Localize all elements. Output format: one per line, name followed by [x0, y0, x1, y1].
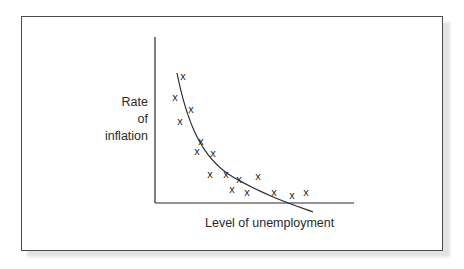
data-point-x-marker: x [177, 115, 183, 127]
data-point-x-marker: x [244, 186, 250, 198]
x-axis-label: Level of unemployment [205, 216, 334, 230]
data-points: xxxxxxxxxxxxxxxx [172, 70, 309, 201]
data-point-x-marker: x [210, 147, 216, 159]
data-point-x-marker: x [229, 183, 235, 195]
data-point-x-marker: x [289, 189, 295, 201]
y-axis-label-line-1: Rate [105, 94, 148, 111]
data-point-x-marker: x [194, 145, 200, 157]
data-point-x-marker: x [172, 91, 178, 103]
data-point-x-marker: x [236, 173, 242, 185]
data-point-x-marker: x [180, 70, 186, 82]
y-axis-label-line-3: inflation [105, 128, 148, 145]
y-axis-label: Rate of inflation [105, 94, 148, 145]
data-point-x-marker: x [223, 168, 229, 180]
data-point-x-marker: x [188, 103, 194, 115]
data-point-x-marker: x [271, 186, 277, 198]
data-point-x-marker: x [303, 186, 309, 198]
data-point-x-marker: x [255, 170, 261, 182]
data-point-x-marker: x [207, 168, 213, 180]
y-axis-label-line-2: of [105, 111, 148, 128]
